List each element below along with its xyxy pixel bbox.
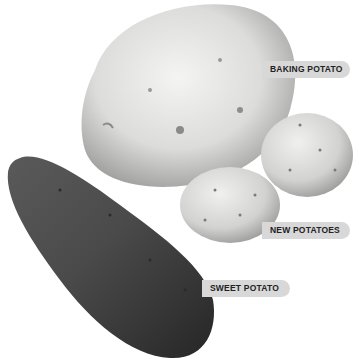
new-potato-back <box>261 113 353 197</box>
label-sweet-potato: SWEET POTATO <box>202 280 290 297</box>
potato-illustration: BAKING POTATO NEW POTATOES SWEET POTATO <box>0 0 359 363</box>
label-baking-potato: BAKING POTATO <box>262 61 350 78</box>
potato-artwork <box>0 0 359 363</box>
sweet-potato <box>8 156 214 358</box>
label-new-potatoes: NEW POTATOES <box>262 222 350 239</box>
